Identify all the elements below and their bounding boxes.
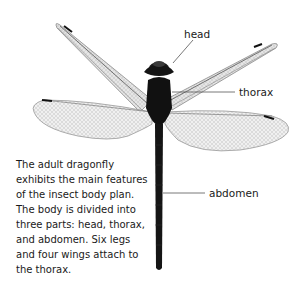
caption-line: exhibits the main features — [16, 172, 146, 187]
label-abdomen: abdomen — [209, 188, 259, 199]
head-leader-line — [173, 40, 193, 63]
caption-line: and abdomen. Six legs — [16, 232, 146, 247]
caption-line: of the insect body plan. — [16, 187, 146, 202]
dragonfly-abdomen — [155, 124, 163, 270]
right-forewing — [165, 44, 277, 111]
caption-line: three parts: head, thorax, — [16, 217, 146, 232]
label-thorax: thorax — [239, 87, 273, 98]
caption-line: and four wings attach to — [16, 247, 146, 262]
right-hindwing — [165, 111, 289, 151]
left-forewing — [56, 24, 152, 112]
caption-line: the thorax. — [16, 262, 146, 277]
label-head: head — [184, 29, 210, 40]
caption-line: The body is divided into — [16, 202, 146, 217]
caption-line: The adult dragonfly — [16, 157, 146, 172]
dragonfly-diagram: head thorax abdomen The adult dragonfly … — [0, 0, 308, 283]
figure-caption: The adult dragonfly exhibits the main fe… — [16, 157, 146, 277]
dragonfly-head — [144, 61, 174, 76]
